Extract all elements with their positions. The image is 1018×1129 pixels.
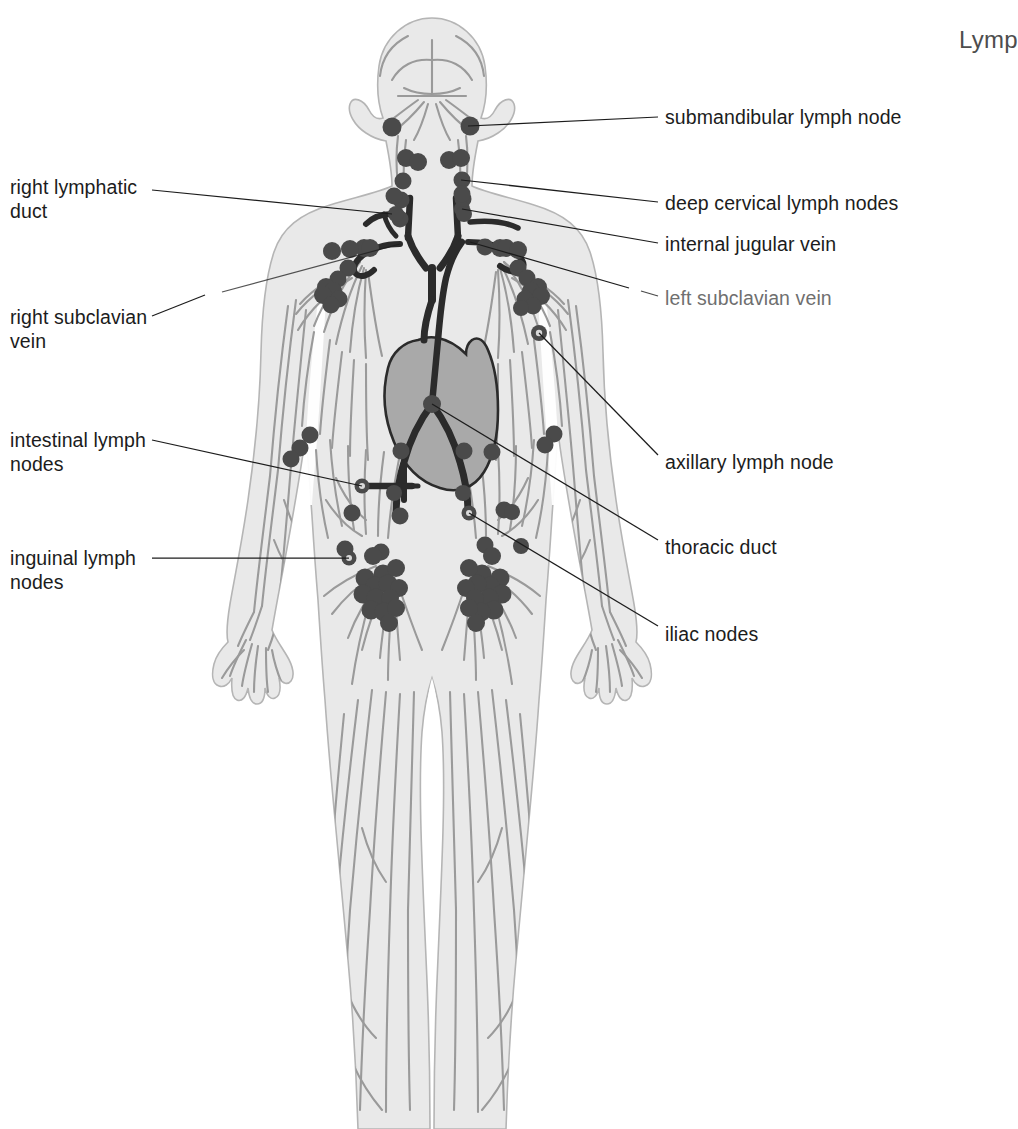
- lymphatic-system-figure: Lymp right lymphatic duct right subclavi…: [0, 0, 1018, 1129]
- label-iliac-nodes: iliac nodes: [665, 622, 758, 646]
- leader-right-subclavian-vein-a: [152, 295, 205, 316]
- leader-left-subclavian-vein-a: [641, 291, 658, 296]
- label-right-lymphatic-duct: right lymphatic duct: [10, 175, 137, 223]
- anatomy-illustration: [0, 0, 1018, 1129]
- label-submandibular-lymph-node: submandibular lymph node: [665, 105, 902, 129]
- label-internal-jugular-vein: internal jugular vein: [665, 232, 836, 256]
- node-submandibular-left: [383, 118, 402, 137]
- label-thoracic-duct: thoracic duct: [665, 535, 777, 559]
- body-silhouette: [213, 18, 652, 1129]
- label-right-subclavian-vein: right subclavian vein: [10, 305, 147, 353]
- label-left-subclavian-vein: left subclavian vein: [665, 286, 832, 310]
- label-inguinal-lymph-nodes: inguinal lymph nodes: [10, 546, 136, 594]
- label-deep-cervical-lymph-nodes: deep cervical lymph nodes: [665, 191, 898, 215]
- label-axillary-lymph-node: axillary lymph node: [665, 450, 834, 474]
- label-intestinal-lymph-nodes: intestinal lymph nodes: [10, 428, 146, 476]
- page-header: Lymp: [959, 26, 1018, 54]
